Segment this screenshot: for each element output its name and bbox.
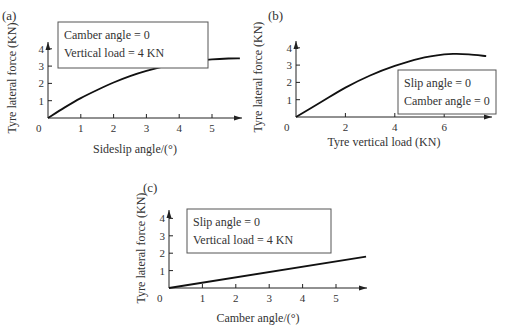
x-axis-title: Tyre vertical load (KN) [328, 135, 441, 149]
y-axis-arrow-icon [167, 210, 172, 218]
x-tick-label: 4 [176, 122, 182, 134]
origin-label: 0 [284, 121, 290, 133]
y-axis-title: Tyre lateral force (KN) [5, 23, 19, 134]
x-tick-label: 2 [343, 121, 349, 133]
data-curve [169, 257, 366, 288]
chart-panel-a: (a)0123451234Sideslip angle/(°)Tyre late… [2, 8, 242, 156]
origin-label: 0 [157, 292, 163, 304]
y-tick-label: 4 [160, 212, 166, 224]
y-tick-label: 1 [39, 95, 45, 107]
x-tick-label: 3 [266, 292, 272, 304]
y-tick-label: 3 [160, 230, 166, 242]
chart-panel-c: (c)0123451234Camber angle/(°)Tyre latera… [134, 180, 367, 325]
y-tick-label: 1 [160, 265, 166, 277]
x-tick-label: 5 [209, 122, 215, 134]
x-axis-arrow-icon [234, 116, 242, 121]
panel-label: (b) [268, 8, 283, 23]
x-tick-label: 3 [144, 122, 150, 134]
origin-label: 0 [36, 122, 42, 134]
legend-entry: Camber angle = 0 [64, 28, 150, 42]
legend-entry: Slip angle = 0 [404, 76, 471, 90]
figure: (a)0123451234Sideslip angle/(°)Tyre late… [0, 0, 507, 328]
y-axis-title: Tyre lateral force (KN) [251, 22, 265, 133]
x-axis-arrow-icon [359, 286, 367, 291]
y-tick-label: 3 [39, 60, 45, 72]
y-tick-label: 2 [39, 77, 45, 89]
legend-entry: Vertical load = 4 KN [64, 46, 164, 60]
x-tick-label: 1 [78, 122, 84, 134]
x-tick-label: 4 [300, 292, 306, 304]
y-tick-label: 3 [287, 59, 293, 71]
panel-label: (a) [2, 8, 16, 23]
y-tick-label: 1 [287, 94, 293, 106]
x-axis-arrow-icon [484, 115, 492, 120]
y-tick-label: 4 [287, 42, 293, 54]
x-tick-label: 2 [233, 292, 239, 304]
y-tick-label: 2 [160, 247, 166, 259]
legend-entry: Vertical load = 4 KN [193, 233, 293, 247]
x-tick-label: 4 [392, 121, 398, 133]
legend-entry: Camber angle = 0 [404, 94, 490, 108]
legend-entry: Slip angle = 0 [193, 215, 260, 229]
x-tick-label: 1 [200, 292, 206, 304]
x-tick-label: 2 [111, 122, 117, 134]
y-tick-label: 4 [39, 43, 45, 55]
x-tick-label: 5 [333, 292, 339, 304]
y-axis-title: Tyre lateral force (KN) [134, 193, 148, 304]
y-tick-label: 2 [287, 76, 293, 88]
x-axis-title: Camber angle/(°) [216, 311, 299, 325]
chart-panel-b: (b)02461234Tyre vertical load (KN)Tyre l… [251, 8, 496, 149]
x-axis-title: Sideslip angle/(°) [93, 142, 177, 156]
x-tick-label: 6 [441, 121, 447, 133]
